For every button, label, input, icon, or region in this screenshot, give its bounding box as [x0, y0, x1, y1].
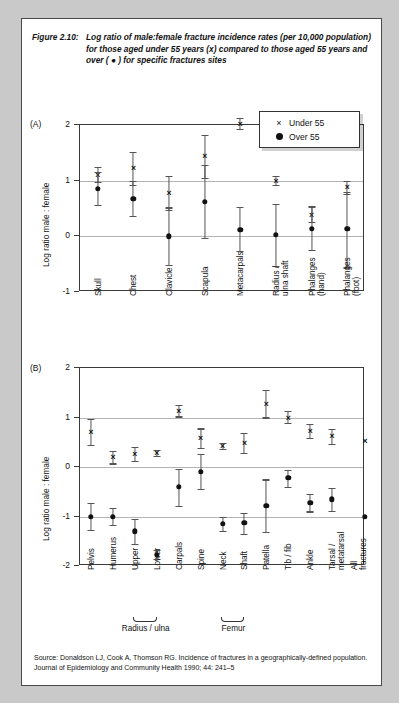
over-55-dot-marker — [238, 227, 243, 232]
error-bar-cap — [131, 519, 138, 520]
error-bar-cap — [175, 469, 182, 470]
gridline — [80, 236, 363, 237]
legend-item-under-55: × Under 55 — [269, 118, 324, 128]
error-bar-cap — [197, 489, 204, 490]
error-bar-cap — [88, 503, 95, 504]
under-55-x-marker: × — [175, 407, 183, 415]
y-axis-tick-label: 2 — [48, 119, 70, 129]
error-bar-cap — [94, 167, 101, 168]
error-bar-cap — [263, 532, 270, 533]
x-axis-category-label: Tarsal / — [328, 544, 337, 570]
error-bar-cap — [131, 461, 138, 462]
x-axis-category-label: Upper — [131, 548, 140, 570]
x-axis-category-label: Humerus — [109, 537, 118, 570]
under-55-x-marker: × — [165, 189, 173, 197]
dot-marker-icon — [269, 132, 289, 142]
under-55-x-marker: × — [284, 414, 292, 422]
error-bar-cap — [237, 129, 244, 130]
error-bar-cap — [285, 470, 292, 471]
source-citation: Source: Donaldson LJ, Cook A, Thomson RG… — [34, 653, 370, 672]
panel-b-tag: (B) — [30, 363, 41, 373]
x-axis-category-label: Ankle — [306, 550, 315, 570]
under-55-x-marker: × — [201, 152, 209, 160]
error-bar-cap — [130, 181, 137, 182]
x-axis-category-label: (hand) — [317, 272, 326, 296]
error-bar-cap — [263, 417, 270, 418]
error-bar-cap — [344, 192, 351, 193]
figure-caption: Figure 2.10: Log ratio of male:female fr… — [32, 32, 374, 67]
group-label: Radius / ulna — [112, 624, 180, 633]
chart-legend: × Under 55 Over 55 — [259, 111, 360, 148]
group-brace — [133, 617, 157, 622]
over-55-dot-marker — [88, 514, 93, 519]
y-axis-tick — [74, 124, 79, 125]
under-55-x-marker: × — [236, 120, 244, 128]
x-axis-category-label: Skull — [94, 278, 103, 296]
x-axis-category-label: Phalanges — [343, 257, 352, 296]
over-55-dot-marker — [110, 514, 115, 519]
error-bar-cap — [272, 204, 279, 205]
over-55-dot-marker — [309, 226, 314, 231]
x-axis-category-label: Clavicle — [165, 267, 174, 296]
error-bar-cap — [329, 488, 336, 489]
over-55-dot-marker — [329, 496, 334, 501]
x-axis-category-label: Chest — [129, 275, 138, 296]
error-bar-cap — [109, 525, 116, 526]
error-bar-cap — [201, 135, 208, 136]
error-bar-cap — [329, 511, 336, 512]
error-bar-cap — [237, 207, 244, 208]
over-55-dot-marker — [286, 475, 291, 480]
x-axis-category-label: Lower — [153, 548, 162, 570]
over-55-dot-marker — [220, 521, 225, 526]
over-55-dot-marker — [198, 469, 203, 474]
y-axis-tick — [74, 417, 79, 418]
legend-item-over-55: Over 55 — [269, 132, 320, 142]
figure-caption-text: Log ratio of male:female fracture incide… — [86, 32, 374, 67]
error-bar-cap — [307, 424, 314, 425]
x-axis-category-label: Metacarpals — [236, 251, 245, 296]
over-55-dot-marker — [131, 196, 136, 201]
error-bar-cap — [201, 165, 208, 166]
y-axis-tick-label: -2 — [48, 560, 70, 570]
gridline — [80, 181, 363, 182]
error-bar-cap — [94, 205, 101, 206]
x-axis-category-label: Neck — [219, 551, 228, 570]
error-bar-cap — [109, 463, 116, 464]
under-55-x-marker: × — [219, 442, 227, 450]
gridline — [80, 467, 363, 468]
error-bar-cap — [308, 206, 315, 207]
error-bar-cap — [197, 428, 204, 429]
error-bar-cap — [263, 390, 270, 391]
y-axis-tick-label: 1 — [48, 412, 70, 422]
y-axis-tick-label: 2 — [48, 362, 70, 372]
x-axis-category-label: ulna shaft — [281, 260, 290, 296]
error-bar-cap — [307, 511, 314, 512]
x-axis-category-label: Shaft — [240, 551, 249, 570]
under-55-x-marker: × — [328, 432, 336, 440]
error-bar-cap — [307, 494, 314, 495]
error-bar-cap — [263, 479, 270, 480]
x-axis-category-label: Scapula — [201, 266, 210, 296]
x-axis-category-label: Patella — [262, 545, 271, 570]
error-bar-cap — [219, 531, 226, 532]
error-bar-cap — [285, 487, 292, 488]
y-axis-tick — [74, 180, 79, 181]
under-55-x-marker: × — [262, 400, 270, 408]
y-axis-tick-label: 0 — [48, 230, 70, 240]
group-brace — [221, 617, 245, 622]
error-bar-cap — [109, 508, 116, 509]
error-bar-cap — [241, 453, 248, 454]
over-55-dot-marker — [264, 503, 269, 508]
x-axis-category-label: metatarsal — [337, 532, 346, 570]
over-55-dot-marker — [166, 234, 171, 239]
error-bar-cap — [307, 438, 314, 439]
y-axis-tick — [74, 466, 79, 467]
y-axis-tick-label: 0 — [48, 461, 70, 471]
error-bar-cap — [94, 172, 101, 173]
y-axis-tick — [74, 235, 79, 236]
error-bar-cap — [175, 416, 182, 417]
error-bar-cap — [197, 454, 204, 455]
x-axis-category-label: fractures — [359, 538, 368, 570]
x-axis-category-label: All — [350, 561, 359, 570]
over-55-dot-marker — [176, 484, 181, 489]
